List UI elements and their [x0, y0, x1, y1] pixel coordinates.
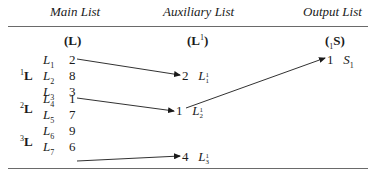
- arrow-icon: [77, 98, 174, 111]
- arrow-icon: [186, 58, 325, 108]
- arrow-icon: [77, 156, 180, 161]
- connector-arrows: [0, 0, 375, 180]
- arrow-icon: [77, 59, 180, 75]
